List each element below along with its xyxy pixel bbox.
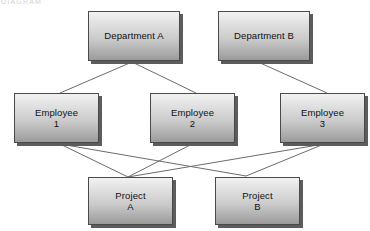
- node-label-line2: 3: [320, 118, 325, 130]
- edge-dept-a-to-employee-1: [60, 62, 132, 93]
- edge-employee-3-to-project-b: [246, 144, 324, 176]
- node-label-line2: A: [127, 201, 133, 213]
- edge-dept-a-to-employee-2: [132, 62, 196, 93]
- edge-employee-1-to-project-a: [60, 144, 128, 177]
- node-dept-b[interactable]: Department B: [218, 11, 310, 61]
- node-employee-1[interactable]: Employee 1: [14, 93, 99, 143]
- node-project-b[interactable]: Project B: [215, 177, 300, 225]
- edge-employee-1-to-project-b: [60, 144, 246, 176]
- node-label-line1: Employee: [301, 107, 344, 119]
- node-label-line1: Project: [242, 190, 272, 202]
- edge-dept-b-to-employee-3: [258, 62, 327, 93]
- node-label-line1: Department B: [234, 30, 294, 42]
- node-project-a[interactable]: Project A: [88, 177, 173, 225]
- node-label-line2: 1: [54, 118, 59, 130]
- node-label-line1: Department A: [104, 30, 163, 42]
- node-label-line2: B: [254, 201, 260, 213]
- diagram-canvas: DIAGRAM Department A Department B Employ…: [0, 0, 370, 231]
- node-label-line1: Employee: [171, 107, 214, 119]
- node-employee-3[interactable]: Employee 3: [280, 93, 365, 143]
- node-label-line1: Project: [115, 190, 145, 202]
- diagram-title-fragment: DIAGRAM: [1, 0, 42, 4]
- node-dept-a[interactable]: Department A: [88, 11, 180, 61]
- node-label-line2: 2: [190, 118, 195, 130]
- node-label-line1: Employee: [35, 107, 78, 119]
- node-employee-2[interactable]: Employee 2: [150, 93, 235, 143]
